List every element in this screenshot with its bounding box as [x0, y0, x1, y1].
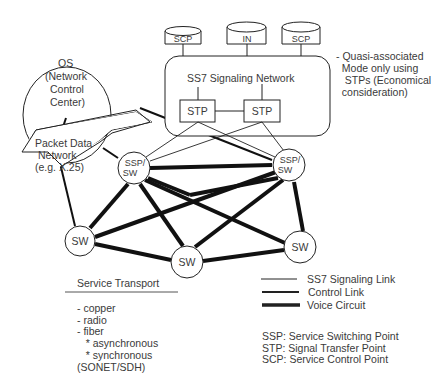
svg-text:OS: OS — [58, 57, 73, 69]
svg-text:Network: Network — [38, 149, 77, 161]
abbreviation-ssp: SSP: Service Switching Point — [262, 331, 399, 343]
stp-label-left: STP — [187, 105, 207, 117]
svg-text:Center): Center) — [50, 96, 85, 108]
sw-mid-label: SW — [179, 256, 196, 268]
svg-text:(Network: (Network — [45, 70, 88, 82]
svg-text:Control: Control — [50, 83, 84, 95]
legend-lines — [261, 279, 300, 305]
quasi-associated-note: - Quasi-associated Mode only using STPs … — [336, 50, 431, 98]
db-label-scp-2: SCP — [292, 34, 311, 44]
service-transport-title: Service Transport — [77, 277, 159, 290]
ss7-network-box — [165, 56, 330, 136]
os-label: OS (Network Control Center) — [45, 57, 88, 108]
sw-left-label: SW — [72, 235, 89, 247]
ssp-left-line2: SW — [123, 168, 138, 178]
db-label-in: IN — [243, 34, 252, 44]
voice-circuits — [90, 165, 303, 261]
ss7-title: SS7 Signaling Network — [187, 72, 295, 84]
legend-label-ss7: SS7 Signaling Link — [307, 273, 395, 286]
legend-label-voice: Voice Circuit — [307, 299, 365, 312]
ssp-right-line1: SSP/ — [280, 155, 301, 165]
service-transport-item: * synchronous — [77, 350, 158, 362]
service-transport-list: - copper - radio - fiber * asynchronous … — [77, 303, 158, 373]
svg-text:Packet Data: Packet Data — [35, 137, 92, 149]
service-transport-item: - copper — [77, 303, 158, 315]
ssp-right-line2: SW — [278, 165, 293, 175]
stp-label-right: STP — [252, 105, 272, 117]
ssp-left-line1: SSP/ — [125, 158, 146, 168]
sw-right-label: SW — [292, 241, 309, 253]
abbreviation-scp: SCP: Service Control Point — [262, 354, 399, 366]
abbreviations: SSP: Service Switching Point STP: Signal… — [262, 331, 399, 366]
legend-label-control: Control Link — [308, 286, 364, 299]
svg-text:(e.g. X.25): (e.g. X.25) — [35, 161, 84, 173]
db-label-scp-1: SCP — [174, 34, 193, 44]
service-transport-item: (SONET/SDH) — [77, 362, 158, 374]
